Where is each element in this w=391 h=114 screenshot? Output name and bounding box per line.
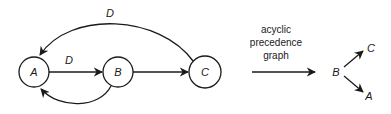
- acyclic-edge-b-to-a: [344, 76, 363, 92]
- edge-a-to-b-label: D: [65, 54, 73, 66]
- caption-line-3: graph: [263, 50, 289, 61]
- acyclic-node-c: C: [367, 42, 375, 54]
- edge-c-to-a-label: D: [106, 7, 114, 19]
- node-b: B: [103, 57, 133, 87]
- caption-line-2: precedence: [250, 37, 303, 48]
- transform-caption: acyclic precedence graph: [250, 24, 303, 61]
- node-b-label: B: [114, 66, 121, 78]
- node-a: A: [19, 57, 49, 87]
- acyclic-edge-b-to-c: [344, 51, 363, 67]
- acyclic-graph: B C A: [332, 42, 375, 102]
- node-a-label: A: [29, 66, 37, 78]
- acyclic-node-a: A: [364, 90, 372, 102]
- precedence-graph-diagram: A B C D D acyclic precedenc: [0, 0, 391, 114]
- acyclic-node-b: B: [332, 66, 339, 78]
- edge-c-to-a: D: [40, 7, 193, 61]
- cyclic-graph: A B C D D: [19, 7, 221, 104]
- edge-b-to-a: [41, 86, 111, 104]
- node-c-label: C: [201, 66, 209, 78]
- node-c: C: [189, 56, 221, 88]
- edge-a-to-b: D: [49, 54, 102, 72]
- caption-line-1: acyclic: [261, 24, 291, 35]
